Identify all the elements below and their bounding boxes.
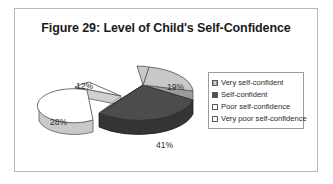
pie-data-label-poor-self-confidence: 28% xyxy=(50,117,67,127)
legend-label-very-poor-self-confidence: Very poor self-confidence xyxy=(221,114,307,123)
legend-label-poor-self-confidence: Poor self-confidence xyxy=(221,102,290,111)
legend-item-very-self-confident: Very self-confident xyxy=(212,77,300,88)
pie-data-label-self-confident: 41% xyxy=(156,140,173,150)
pie-chart-plot-area: 19% 41% 28% 12% xyxy=(31,57,211,165)
legend-item-poor-self-confidence: Poor self-confidence xyxy=(212,101,300,112)
chart-frame: Figure 29: Level of Child's Self-Confide… xyxy=(14,8,318,172)
figure-container: Figure 29: Level of Child's Self-Confide… xyxy=(0,0,333,184)
chart-title: Figure 29: Level of Child's Self-Confide… xyxy=(15,21,317,35)
legend-item-self-confident: Self-confident xyxy=(212,89,300,100)
legend-label-very-self-confident: Very self-confident xyxy=(221,78,283,87)
legend-swatch-icon-poor-self-confidence xyxy=(212,104,218,110)
legend-item-very-poor-self-confidence: Very poor self-confidence xyxy=(212,113,300,124)
legend-swatch-icon-very-self-confident xyxy=(212,80,218,86)
legend-label-self-confident: Self-confident xyxy=(221,90,267,99)
pie-data-label-very-poor-self-confidence: 12% xyxy=(76,81,93,91)
chart-legend: Very self-confident Self-confident Poor … xyxy=(208,72,304,129)
legend-swatch-icon-very-poor-self-confidence xyxy=(212,116,218,122)
pie-chart-svg xyxy=(31,57,211,165)
legend-swatch-icon-self-confident xyxy=(212,92,218,98)
pie-data-label-very-self-confident: 19% xyxy=(167,82,184,92)
